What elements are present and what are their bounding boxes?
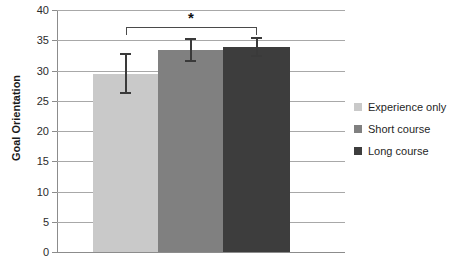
y-axis-tick (52, 222, 57, 223)
plot-area: 4035302520151050 * (57, 10, 345, 252)
y-axis-tick (52, 71, 57, 72)
bracket-horizontal-bar (126, 27, 257, 28)
legend-item-label: Experience only (368, 101, 446, 113)
gridline (57, 10, 345, 11)
y-axis-tick (52, 192, 57, 193)
y-axis-tick (52, 252, 57, 253)
y-axis-tick-label: 25 (37, 95, 49, 107)
y-axis-tick-label: 20 (37, 125, 49, 137)
error-bar-cap-top (185, 38, 196, 40)
y-axis-tick (52, 40, 57, 41)
y-axis-title: Goal Orientation (10, 58, 22, 178)
bracket-right-leg (256, 27, 257, 35)
error-bar (247, 37, 267, 58)
y-axis-tick-label: 5 (43, 216, 49, 228)
bar-experience-only (93, 74, 158, 252)
y-axis-tick-label: 0 (43, 246, 49, 258)
legend-item-label: Short course (368, 123, 430, 135)
error-bar-stem (190, 38, 192, 62)
gridline (57, 40, 345, 41)
y-axis-tick-label: 35 (37, 34, 49, 46)
y-axis-tick (52, 10, 57, 11)
error-bar (116, 53, 136, 94)
gridline (57, 252, 345, 253)
error-bar-cap-top (251, 37, 262, 39)
y-axis-tick-label: 10 (37, 186, 49, 198)
y-axis-tick (52, 131, 57, 132)
legend-swatch-icon (354, 125, 362, 133)
significance-asterisk: * (188, 10, 194, 25)
error-bar (181, 38, 201, 62)
bar-short-course (158, 50, 223, 252)
bar-chart: Goal Orientation 4035302520151050 * Expe… (0, 0, 455, 266)
y-axis-tick (52, 161, 57, 162)
legend-swatch-icon (354, 147, 362, 155)
legend-item[interactable]: Short course (354, 118, 446, 140)
legend-item[interactable]: Long course (354, 140, 446, 162)
y-axis-tick-label: 15 (37, 155, 49, 167)
error-bar-stem (125, 53, 127, 94)
error-bar-cap-bottom (185, 60, 196, 62)
bracket-left-leg (126, 27, 127, 35)
error-bar-cap-top (120, 53, 131, 55)
error-bar-stem (256, 37, 258, 58)
y-axis-tick-label: 40 (37, 4, 49, 16)
legend-item-label: Long course (368, 145, 429, 157)
legend: Experience onlyShort courseLong course (354, 96, 446, 162)
y-axis-tick-label: 30 (37, 65, 49, 77)
bar-long-course (223, 47, 290, 252)
error-bar-cap-bottom (251, 55, 262, 57)
legend-swatch-icon (354, 103, 362, 111)
legend-item[interactable]: Experience only (354, 96, 446, 118)
y-axis-tick (52, 101, 57, 102)
error-bar-cap-bottom (120, 92, 131, 94)
